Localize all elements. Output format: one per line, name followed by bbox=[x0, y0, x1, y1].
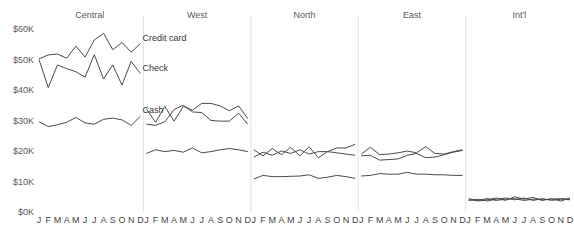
y-axis-tick-label: $40K bbox=[13, 85, 34, 95]
x-axis-tick-label: S bbox=[217, 215, 223, 225]
x-axis-tick-label: D bbox=[245, 215, 252, 225]
series-label-credit-card: Credit card bbox=[142, 33, 186, 43]
x-axis-tick-label: N bbox=[450, 215, 457, 225]
series-line bbox=[39, 55, 140, 88]
x-axis-tick-label: D bbox=[352, 215, 359, 225]
x-axis-tick-label: A bbox=[423, 215, 429, 225]
x-axis-tick-label: J bbox=[83, 215, 88, 225]
x-axis-tick-label: N bbox=[128, 215, 135, 225]
panel-title: Int'l bbox=[466, 10, 573, 20]
x-axis-tick-label: J bbox=[359, 215, 364, 225]
series-line bbox=[254, 175, 355, 179]
x-axis-tick-label: S bbox=[432, 215, 438, 225]
series-line bbox=[361, 172, 462, 176]
x-axis-tick-label: J bbox=[307, 215, 312, 225]
x-axis-tick-label: J bbox=[512, 215, 517, 225]
x-axis-tick-label: A bbox=[101, 215, 107, 225]
series-line bbox=[39, 116, 140, 126]
x-axis-tick-label: D bbox=[137, 215, 144, 225]
x-axis-tick-label: M bbox=[502, 215, 510, 225]
x-axis-tick-label: J bbox=[199, 215, 204, 225]
x-axis-tick-label: J bbox=[466, 215, 471, 225]
series-label-cash: Cash bbox=[142, 105, 163, 115]
x-axis-tick-label: O bbox=[548, 215, 555, 225]
x-axis-tick-label: F bbox=[260, 215, 266, 225]
panel-title: Central bbox=[36, 10, 143, 20]
x-axis-tick-label: O bbox=[118, 215, 125, 225]
y-axis-tick-label: $50K bbox=[13, 55, 34, 65]
x-axis-tick-label: J bbox=[144, 215, 149, 225]
x-axis-tick-label: N bbox=[235, 215, 242, 225]
y-axis-tick-label: $30K bbox=[13, 116, 34, 126]
x-axis-tick-label: J bbox=[405, 215, 410, 225]
x-axis-tick-label: F bbox=[475, 215, 481, 225]
x-axis-tick-label: N bbox=[558, 215, 565, 225]
x-axis-tick-label: O bbox=[441, 215, 448, 225]
plot-canvas bbox=[0, 0, 574, 237]
x-axis-tick-label: M bbox=[268, 215, 276, 225]
y-axis-tick-label: $10K bbox=[13, 177, 34, 187]
x-axis-tick-label: M bbox=[287, 215, 295, 225]
panel-title: East bbox=[358, 10, 465, 20]
x-axis-tick-label: A bbox=[64, 215, 70, 225]
x-axis-tick-label: S bbox=[539, 215, 545, 225]
x-axis-tick-label: F bbox=[45, 215, 51, 225]
x-axis-tick-label: J bbox=[92, 215, 97, 225]
series-line bbox=[254, 144, 355, 157]
x-axis-tick-label: J bbox=[522, 215, 527, 225]
x-axis-tick-label: D bbox=[459, 215, 466, 225]
x-axis-tick-label: J bbox=[252, 215, 257, 225]
y-axis: $0K$10K$20K$30K$40K$50K$60K bbox=[0, 0, 34, 237]
x-axis-tick-label: M bbox=[161, 215, 169, 225]
series-line bbox=[39, 33, 140, 59]
x-axis-tick-label: M bbox=[483, 215, 491, 225]
x-axis-tick-label: A bbox=[386, 215, 392, 225]
y-axis-tick-label: $60K bbox=[13, 24, 34, 34]
x-axis-tick-label: A bbox=[278, 215, 284, 225]
x-axis-tick-label: S bbox=[325, 215, 331, 225]
x-axis-tick-label: N bbox=[343, 215, 350, 225]
x-axis-tick-label: M bbox=[54, 215, 62, 225]
series-line bbox=[146, 148, 247, 153]
panel-title: North bbox=[251, 10, 358, 20]
x-axis-tick-label: D bbox=[567, 215, 574, 225]
x-axis-tick-label: M bbox=[376, 215, 384, 225]
x-axis-tick-label: S bbox=[110, 215, 116, 225]
x-axis-tick-label: A bbox=[315, 215, 321, 225]
series-label-check: Check bbox=[142, 63, 168, 73]
y-axis-tick-label: $0K bbox=[18, 207, 34, 217]
x-axis-tick-label: O bbox=[333, 215, 340, 225]
small-multiples-line-chart: $0K$10K$20K$30K$40K$50K$60K JFMAMJJASOND… bbox=[0, 0, 574, 237]
x-axis-tick-label: M bbox=[72, 215, 80, 225]
panel-title: West bbox=[143, 10, 250, 20]
x-axis-tick-label: J bbox=[298, 215, 303, 225]
x-axis-tick-label: J bbox=[190, 215, 195, 225]
x-axis-tick-label: F bbox=[153, 215, 159, 225]
x-axis-tick-label: A bbox=[530, 215, 536, 225]
y-axis-tick-label: $20K bbox=[13, 146, 34, 156]
x-axis-tick-label: M bbox=[394, 215, 402, 225]
x-axis-tick-label: J bbox=[37, 215, 42, 225]
x-axis-tick-label: J bbox=[414, 215, 419, 225]
x-axis-tick-label: A bbox=[171, 215, 177, 225]
x-axis-tick-label: A bbox=[493, 215, 499, 225]
x-axis-tick-label: M bbox=[180, 215, 188, 225]
x-axis-tick-label: F bbox=[368, 215, 374, 225]
x-axis-tick-label: A bbox=[208, 215, 214, 225]
x-axis-tick-label: O bbox=[226, 215, 233, 225]
